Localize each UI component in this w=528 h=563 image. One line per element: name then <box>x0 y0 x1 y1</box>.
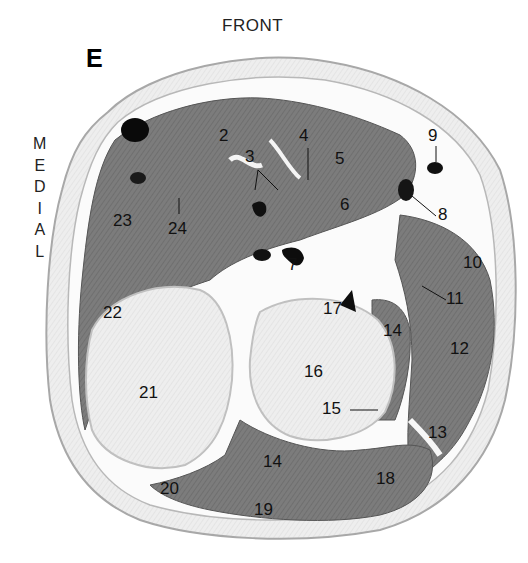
structure-label-5: 5 <box>335 150 344 167</box>
medial-letter: A <box>31 219 49 241</box>
structure-label-13: 13 <box>428 424 447 441</box>
structure-label-17: 17 <box>323 300 342 317</box>
structure-label-22: 22 <box>103 304 122 321</box>
structure-label-3: 3 <box>245 148 254 165</box>
structure-label-7: 7 <box>288 256 297 273</box>
vessel-1 <box>121 118 149 142</box>
structure-label-21: 21 <box>139 384 158 401</box>
vessel-9 <box>427 162 443 174</box>
structure-label-15: 15 <box>322 400 341 417</box>
structure-label-4: 4 <box>299 127 308 144</box>
structure-label-20: 20 <box>160 480 179 497</box>
structure-label-18: 18 <box>376 470 395 487</box>
medial-letter: D <box>31 176 49 198</box>
structure-label-6: 6 <box>340 196 349 213</box>
structure-label-14b: 14 <box>263 453 282 470</box>
structure-label-23: 23 <box>113 212 132 229</box>
structure-label-9: 9 <box>428 127 437 144</box>
medial-letter: M <box>31 133 49 155</box>
medial-letter: L <box>31 241 49 263</box>
structure-label-12: 12 <box>450 340 469 357</box>
vessel-23 <box>130 172 146 184</box>
panel-letter: E <box>86 44 103 73</box>
structure-label-14a: 14 <box>383 322 402 339</box>
structure-label-19: 19 <box>254 501 273 518</box>
structure-label-11: 11 <box>446 290 464 307</box>
structure-label-2: 2 <box>219 127 228 144</box>
medial-letter: E <box>31 155 49 177</box>
medial-letter: I <box>31 198 49 220</box>
orientation-medial-label: M E D I A L <box>31 133 49 262</box>
orientation-front-label: FRONT <box>222 16 283 36</box>
structure-label-24: 24 <box>168 220 187 237</box>
structure-label-16: 16 <box>304 363 323 380</box>
anatomical-cross-section-figure: FRONT M E D I A L E 23456789101112131414… <box>0 0 528 563</box>
cross-section-illustration <box>0 0 528 563</box>
vessel-8 <box>398 179 414 201</box>
vessel-7b <box>253 249 271 261</box>
structure-label-10: 10 <box>463 254 482 271</box>
structure-label-8: 8 <box>438 206 447 223</box>
